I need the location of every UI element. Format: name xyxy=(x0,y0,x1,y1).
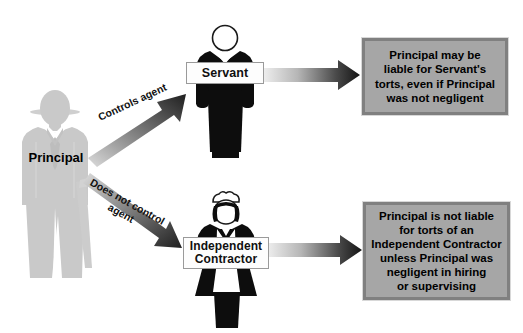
principal-figure-icon xyxy=(22,90,92,278)
outcome-line: Principal is not liable xyxy=(371,209,501,223)
outcome-line: liable for Servant's xyxy=(375,62,495,76)
outcome-line: was not negligent xyxy=(375,91,495,105)
servant-outcome-box: Principal may be liable for Servant's to… xyxy=(362,38,508,115)
outcome-line: or supervising xyxy=(371,279,501,293)
outcome-line: torts, even if Principal xyxy=(375,77,495,91)
servant-to-outcome-arrow xyxy=(264,60,360,90)
contractor-outcome-text: Principal is not liable for torts of an … xyxy=(371,209,501,293)
contractor-label: Independent Contractor xyxy=(183,237,269,269)
contractor-to-outcome-arrow xyxy=(268,235,362,265)
contractor-label-line-1: Independent xyxy=(184,240,268,253)
servant-figure-icon xyxy=(196,26,254,159)
outcome-line: for torts of an xyxy=(371,223,501,237)
outcome-line: negligent in hiring xyxy=(371,265,501,279)
contractor-label-line-2: Contractor xyxy=(184,253,268,266)
servant-label: Servant xyxy=(186,62,264,84)
servant-outcome-text: Principal may be liable for Servant's to… xyxy=(375,48,495,104)
diagram-canvas: Principal Controls agent Does not contro… xyxy=(0,0,523,333)
outcome-line: Independent Contractor xyxy=(371,237,501,251)
principal-label: Principal xyxy=(20,150,92,165)
outcome-line: unless Principal was xyxy=(371,251,501,265)
contractor-outcome-box: Principal is not liable for torts of an … xyxy=(363,202,510,300)
outcome-line: Principal may be xyxy=(375,48,495,62)
